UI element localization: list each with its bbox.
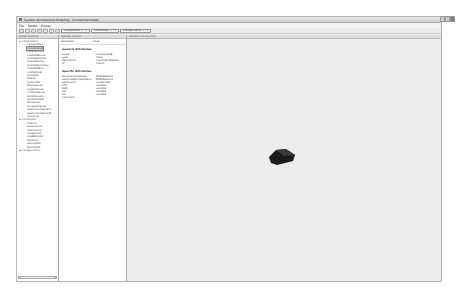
redo-button[interactable]: [43, 29, 48, 33]
add-icon[interactable]: +: [146, 30, 148, 32]
tree-group-configurations[interactable]: ⊞ Configurations: [19, 149, 56, 152]
add-icon[interactable]: +: [85, 30, 87, 32]
window-controls: [440, 16, 455, 22]
property-value[interactable]: [96, 96, 126, 99]
dropdown-icon[interactable]: ▾: [82, 30, 83, 32]
undo-button[interactable]: [37, 29, 42, 33]
menu-extras[interactable]: Extras: [41, 24, 50, 28]
general-attributes-title: General Attributes: [59, 45, 126, 53]
tab-configurations[interactable]: Configurations ▾ +: [120, 29, 152, 33]
toolbar: Components ▾ + Connectors ▾ + Configurat…: [17, 28, 441, 34]
project-explorer: Project Explorer ⊟ ComponentsComponentAC…: [17, 35, 59, 281]
tab-connectors[interactable]: Connectors ▾ +: [91, 29, 119, 33]
horizontal-scrollbar[interactable]: ◂ ▸: [18, 276, 57, 279]
dropdown-icon[interactable]: ▾: [110, 30, 111, 32]
column-value: Value: [93, 40, 125, 43]
scroll-left-icon[interactable]: ◂: [19, 277, 20, 278]
delete-button[interactable]: [49, 29, 54, 33]
property-row[interactable]: idclient2: [59, 62, 126, 65]
save-button[interactable]: [31, 29, 36, 33]
explorer-tree: ⊟ ComponentsComponentAComponentBLabelled…: [17, 39, 58, 153]
property-row[interactable]: Constraint: [59, 96, 126, 99]
specific-attributes-title: Specific Attributes: [59, 67, 126, 75]
scroll-right-icon[interactable]: ▸: [55, 277, 56, 278]
app-window: System Architecture Modeling - [Componen…: [16, 16, 442, 282]
property-value[interactable]: client2: [96, 62, 126, 65]
open-button[interactable]: [25, 29, 30, 33]
specific-attributes: physicalComponentMobileDeviceassociatedC…: [59, 75, 126, 99]
3d-device-shape[interactable]: [267, 147, 297, 167]
menu-file[interactable]: File: [19, 24, 24, 28]
general-attributes: nameComponentBtypeclientdescriptionCusto…: [59, 53, 126, 65]
main-content: Project Explorer ⊟ ComponentsComponentAC…: [17, 35, 441, 281]
element-details: Element Details Parameter Value General …: [59, 35, 127, 281]
property-key: Constraint: [62, 96, 96, 99]
add-icon[interactable]: +: [114, 30, 116, 32]
tab-components[interactable]: Components ▾ +: [61, 29, 90, 33]
column-parameter: Parameter: [61, 40, 93, 43]
close-button[interactable]: [450, 16, 455, 22]
app-icon: [19, 18, 22, 21]
window-title: System Architecture Modeling - [Componen…: [24, 18, 99, 22]
dropdown-icon[interactable]: ▾: [143, 30, 144, 32]
menu-model[interactable]: Model: [28, 24, 37, 28]
property-key: id: [62, 62, 96, 65]
refresh-button[interactable]: [55, 29, 60, 33]
new-button[interactable]: [19, 29, 24, 33]
